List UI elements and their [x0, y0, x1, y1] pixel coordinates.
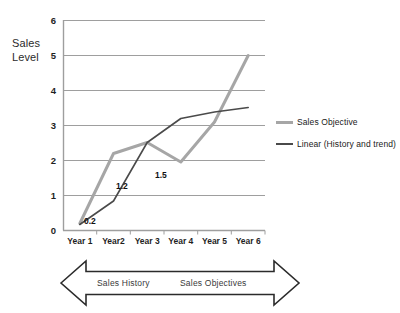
legend-line-icon-trend — [276, 143, 293, 145]
arrow-label-sales-objectives: Sales Objectives — [180, 278, 247, 288]
legend-item-linear-trend: Linear (History and trend) — [276, 136, 400, 152]
data-label-year1: 0.2 — [84, 216, 96, 226]
legend-label-linear-trend: Linear (History and trend) — [297, 139, 396, 149]
arrow-label-sales-history: Sales History — [97, 278, 150, 288]
chart-legend: Sales Objective Linear (History and tren… — [276, 114, 400, 158]
legend-item-sales-objective: Sales Objective — [276, 114, 400, 130]
x-tick-label-year-6: Year 6 — [228, 236, 268, 246]
legend-line-icon-objective — [276, 121, 293, 124]
series-sales-objective — [80, 56, 248, 224]
chart-figure: Sales Level 6 5 4 3 2 1 0 — [0, 0, 400, 313]
legend-label-sales-objective: Sales Objective — [297, 117, 358, 127]
data-label-year3: 1.5 — [155, 170, 167, 180]
data-label-year2: 1.2 — [116, 181, 128, 191]
